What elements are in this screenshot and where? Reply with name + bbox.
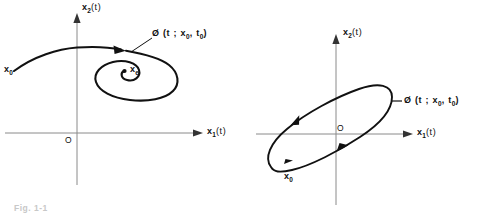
initial-state-label-right: x0	[284, 171, 293, 183]
phase-plane-diagram-right: x2(t) x1(t) O x0 Ø (t ; x0, t0)	[240, 0, 477, 215]
figure-caption: Fig. 1-1	[14, 203, 48, 213]
trajectory-label-right: Ø (t ; x0, t0)	[404, 95, 459, 107]
initial-state-label-left: x0	[4, 64, 13, 76]
origin-marker-left: O	[65, 135, 72, 145]
axis-horizontal-left	[5, 129, 203, 136]
axis-label-x2-right: x2(t)	[343, 27, 362, 39]
figure-container: x2(t) x1(t) O x0 xe Ø (t ; x0, t0)	[0, 0, 477, 215]
trajectory-curve-left	[14, 46, 178, 101]
phase-plane-diagram-left: x2(t) x1(t) O x0 xe Ø (t ; x0, t0)	[0, 0, 240, 215]
axis-label-x1-left: x1(t)	[207, 126, 226, 138]
origin-marker-right: O	[337, 123, 344, 133]
axis-label-x2-left: x2(t)	[82, 2, 101, 14]
axis-vertical-left	[73, 13, 80, 185]
equilibrium-point-label-left: xe	[130, 64, 139, 76]
trajectory-label-left: Ø (t ; x0, t0)	[152, 28, 207, 40]
axis-vertical-right	[332, 34, 339, 205]
closed-orbit-curve-right	[268, 85, 392, 171]
axis-label-x1-right: x1(t)	[417, 127, 436, 139]
leader-line-left	[131, 38, 152, 52]
